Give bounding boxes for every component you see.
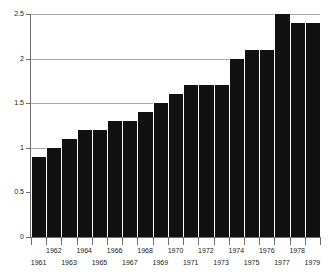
x-tick-label: 1966 — [103, 247, 127, 255]
x-tick-mark — [320, 238, 321, 245]
x-tick-label: 1975 — [240, 259, 264, 267]
x-tick-mark — [107, 238, 108, 245]
x-tick-mark — [122, 238, 123, 245]
x-tick-mark — [229, 238, 230, 245]
bar — [122, 121, 137, 237]
bar — [305, 23, 320, 237]
x-tick-mark — [274, 238, 275, 245]
x-axis-line — [31, 237, 321, 238]
x-tick-mark — [198, 238, 199, 245]
x-tick-mark — [259, 238, 260, 245]
bar — [92, 130, 107, 237]
x-tick-mark — [137, 238, 138, 245]
x-tick-mark — [46, 238, 47, 245]
y-tick-label: 2 — [0, 55, 24, 62]
x-tick-mark — [214, 238, 215, 245]
bar — [183, 85, 198, 237]
x-tick-label: 1965 — [87, 259, 111, 267]
bar — [46, 148, 61, 237]
x-tick-label: 1969 — [148, 259, 172, 267]
y-tick-label: 1 — [0, 144, 24, 151]
bar — [229, 59, 244, 237]
x-tick-label: 1961 — [27, 259, 51, 267]
x-tick-label: 1962 — [42, 247, 66, 255]
y-tick-label: 1.5 — [0, 99, 24, 106]
x-tick-label: 1967 — [118, 259, 142, 267]
bar — [77, 130, 92, 237]
x-tick-mark — [290, 238, 291, 245]
x-tick-label: 1972 — [194, 247, 218, 255]
x-tick-mark — [244, 238, 245, 245]
y-tick-label: 0.5 — [0, 188, 24, 195]
bar — [107, 121, 122, 237]
bar — [153, 103, 168, 237]
bar — [214, 85, 229, 237]
x-tick-mark — [153, 238, 154, 245]
x-tick-label: 1971 — [179, 259, 203, 267]
x-tick-mark — [31, 238, 32, 245]
x-tick-mark — [92, 238, 93, 245]
bar — [137, 112, 152, 237]
bar — [259, 50, 274, 237]
y-tick-label: 2.5 — [0, 10, 24, 17]
chart-title — [0, 0, 334, 1]
bar — [244, 50, 259, 237]
bar — [274, 14, 289, 237]
x-tick-label: 1973 — [209, 259, 233, 267]
bar — [61, 139, 76, 237]
x-tick-label: 1964 — [72, 247, 96, 255]
bar-series — [31, 14, 321, 237]
x-tick-mark — [61, 238, 62, 245]
x-tick-mark — [305, 238, 306, 245]
x-tick-label: 1963 — [57, 259, 81, 267]
x-tick-label: 1979 — [300, 259, 324, 267]
x-tick-label: 1977 — [270, 259, 294, 267]
x-tick-label: 1976 — [255, 247, 279, 255]
y-tick-label: 0 — [0, 233, 24, 240]
bar — [31, 157, 46, 237]
x-tick-mark — [183, 238, 184, 245]
x-tick-label: 1978 — [285, 247, 309, 255]
bar — [168, 94, 183, 237]
x-tick-mark — [168, 238, 169, 245]
x-tick-label: 1968 — [133, 247, 157, 255]
x-tick-mark — [77, 238, 78, 245]
x-tick-label: 1974 — [224, 247, 248, 255]
bar — [198, 85, 213, 237]
bar-chart: 00.511.522.5 196119621963196419651966196… — [0, 0, 334, 278]
x-tick-label: 1970 — [164, 247, 188, 255]
bar — [290, 23, 305, 237]
